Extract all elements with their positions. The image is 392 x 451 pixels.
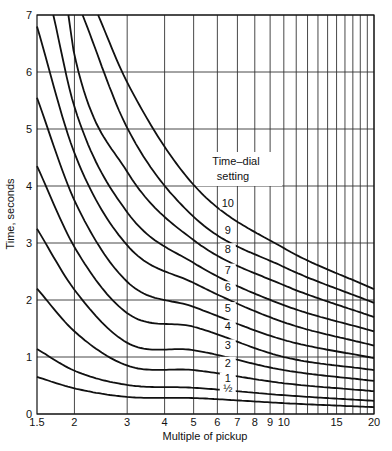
curve-label: 1 <box>225 372 231 384</box>
x-gridlines <box>74 15 374 414</box>
x-tick-label: 9 <box>267 416 273 428</box>
time-current-chart: ½12345678910 1.523456789101520 01234567 … <box>0 0 392 451</box>
plot-frame <box>37 15 374 414</box>
x-tick-label: 15 <box>330 416 342 428</box>
y-tick-label: 3 <box>26 237 32 249</box>
x-tick-label: 20 <box>368 416 380 428</box>
x-tick-labels: 1.523456789101520 <box>29 416 380 428</box>
y-tick-label: 0 <box>26 408 32 420</box>
x-tick-label: 10 <box>278 416 290 428</box>
curve-label: 7 <box>225 264 231 276</box>
curve-label: 4 <box>225 320 231 332</box>
curve-labels: ½12345678910 <box>220 197 236 393</box>
y-tick-label: 2 <box>26 294 32 306</box>
curve-label: 8 <box>225 243 231 255</box>
y-tick-label: 7 <box>26 9 32 21</box>
y-tick-label: 4 <box>26 180 32 192</box>
y-tick-labels: 01234567 <box>26 9 32 420</box>
curve-label: 2 <box>225 357 231 369</box>
y-tick-label: 5 <box>26 123 32 135</box>
x-tick-label: 6 <box>214 416 220 428</box>
curve-label: 6 <box>225 281 231 293</box>
curve-label: 5 <box>225 302 231 314</box>
x-tick-label: 3 <box>124 416 130 428</box>
x-axis-label: Multiple of pickup <box>163 430 248 442</box>
y-gridlines <box>37 15 374 414</box>
curve-label: 3 <box>225 339 231 351</box>
x-tick-label: 7 <box>234 416 240 428</box>
legend-title-line2: setting <box>217 170 249 182</box>
x-tick-label: 4 <box>162 416 168 428</box>
x-tick-label: 5 <box>191 416 197 428</box>
curve-label: 10 <box>222 197 234 209</box>
curve-label: 9 <box>225 224 231 236</box>
x-tick-label: 2 <box>71 416 77 428</box>
y-axis-label: Time, seconds <box>4 178 16 250</box>
x-tick-label: 8 <box>252 416 258 428</box>
curve-dial-3 <box>37 229 374 381</box>
y-tick-label: 1 <box>26 351 32 363</box>
curve-dial-1-2 <box>37 377 374 407</box>
time-dial-curves <box>37 15 374 407</box>
legend-title-line1: Time–dial <box>212 155 259 167</box>
y-tick-label: 6 <box>26 66 32 78</box>
